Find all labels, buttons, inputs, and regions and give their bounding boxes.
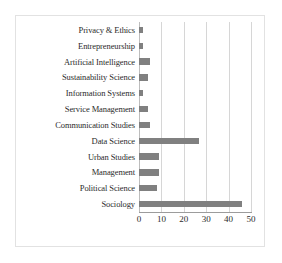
category-label: Artificial Intelligence xyxy=(27,57,135,67)
x-tick-label: 0 xyxy=(137,214,142,224)
category-label: Service Management xyxy=(27,104,135,114)
bar xyxy=(139,74,148,80)
category-label: Political Science xyxy=(27,183,135,193)
x-tick-label: 20 xyxy=(179,214,188,224)
bar xyxy=(139,90,143,96)
bar xyxy=(139,58,150,64)
x-tick-label: 50 xyxy=(247,214,256,224)
category-label: Management xyxy=(27,167,135,177)
x-axis-line xyxy=(139,212,252,213)
bar xyxy=(139,122,150,128)
bar xyxy=(139,153,159,159)
x-axis-tick-labels: 01020304050 xyxy=(139,214,251,230)
x-tick-label: 30 xyxy=(202,214,211,224)
bar xyxy=(139,43,143,49)
gridline xyxy=(184,22,185,212)
bar xyxy=(139,138,199,144)
bar-chart: Privacy & EthicsEntrepreneurshipArtifici… xyxy=(16,16,264,246)
bar xyxy=(139,106,148,112)
category-label: Sustainability Science xyxy=(27,72,135,82)
chart-frame: Privacy & EthicsEntrepreneurshipArtifici… xyxy=(15,15,265,247)
category-label: Urban Studies xyxy=(27,152,135,162)
plot-area xyxy=(139,22,251,212)
gridline xyxy=(161,22,162,212)
category-label: Data Science xyxy=(27,136,135,146)
bar xyxy=(139,27,143,33)
bar xyxy=(139,201,242,207)
y-axis-line xyxy=(139,22,140,212)
bar xyxy=(139,185,157,191)
x-tick-label: 10 xyxy=(157,214,166,224)
x-tick-label: 40 xyxy=(224,214,233,224)
gridline xyxy=(251,22,252,212)
category-label: Privacy & Ethics xyxy=(27,25,135,35)
gridline xyxy=(206,22,207,212)
category-label: Communication Studies xyxy=(27,120,135,130)
category-label: Entrepreneurship xyxy=(27,41,135,51)
gridline xyxy=(229,22,230,212)
bar xyxy=(139,169,159,175)
category-label: Information Systems xyxy=(27,88,135,98)
category-label: Sociology xyxy=(27,199,135,209)
